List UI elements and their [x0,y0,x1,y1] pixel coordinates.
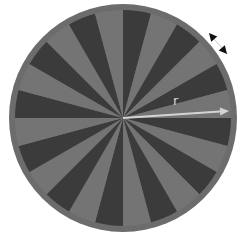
wedge-disk-diagram: r [0,0,244,236]
radius-label: r [173,93,179,108]
dimension-arrowhead-icon [219,45,227,54]
dimension-arrowhead-icon [209,33,217,42]
